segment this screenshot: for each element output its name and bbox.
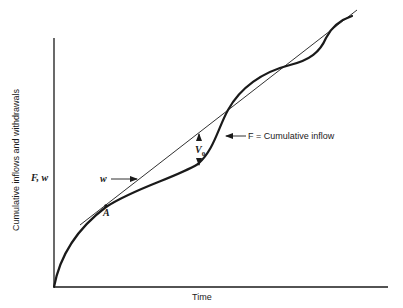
- withdrawal-line-w: [80, 10, 357, 225]
- y-axis-symbol: F, w: [30, 172, 48, 183]
- v0-label: V0: [195, 144, 206, 158]
- point-a-label: A: [102, 207, 110, 218]
- x-axis-label: Time: [192, 292, 212, 302]
- line-w-label: w: [100, 173, 107, 184]
- y-axis-label: Cumulative inflows and withdrawals: [11, 88, 21, 231]
- v0-label-sub: 0: [202, 150, 206, 158]
- mass-curve-diagram: Cumulative inflows and withdrawals F, w …: [0, 0, 403, 308]
- curve-f-label: F = Cumulative inflow: [248, 131, 335, 141]
